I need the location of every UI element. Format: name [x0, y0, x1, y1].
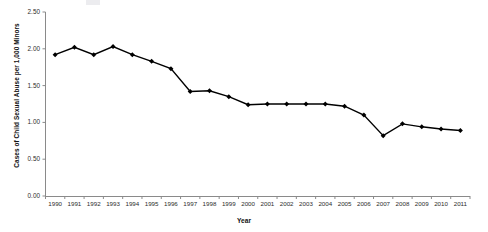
- x-tick-label: 2011: [448, 200, 472, 207]
- data-point-marker: [439, 127, 444, 132]
- data-point-marker: [111, 44, 116, 49]
- data-point-marker: [91, 52, 96, 57]
- data-point-marker: [419, 124, 424, 129]
- data-point-marker: [246, 102, 251, 107]
- data-point-marker: [72, 45, 77, 50]
- data-series-line: [55, 47, 460, 136]
- data-point-marker: [265, 102, 270, 107]
- data-point-marker: [284, 102, 289, 107]
- data-point-marker: [53, 52, 58, 57]
- y-tick-label: 2.00: [16, 45, 40, 52]
- y-tick-label: 1.50: [16, 82, 40, 89]
- data-series-markers: [53, 44, 463, 138]
- data-point-marker: [130, 52, 135, 57]
- chart-axes: [43, 12, 471, 199]
- data-point-marker: [207, 88, 212, 93]
- line-chart-plot: [0, 0, 488, 232]
- data-point-marker: [226, 94, 231, 99]
- y-tick-label: 0.50: [16, 155, 40, 162]
- chart-container: Cases of Child Sexual Abuse per 1,000 Mi…: [0, 0, 488, 232]
- y-tick-label: 2.50: [16, 8, 40, 15]
- data-point-marker: [342, 104, 347, 109]
- data-point-marker: [323, 102, 328, 107]
- y-tick-label: 0.00: [16, 192, 40, 199]
- data-point-marker: [149, 59, 154, 64]
- data-point-marker: [303, 102, 308, 107]
- data-point-marker: [458, 128, 463, 133]
- y-tick-label: 1.00: [16, 118, 40, 125]
